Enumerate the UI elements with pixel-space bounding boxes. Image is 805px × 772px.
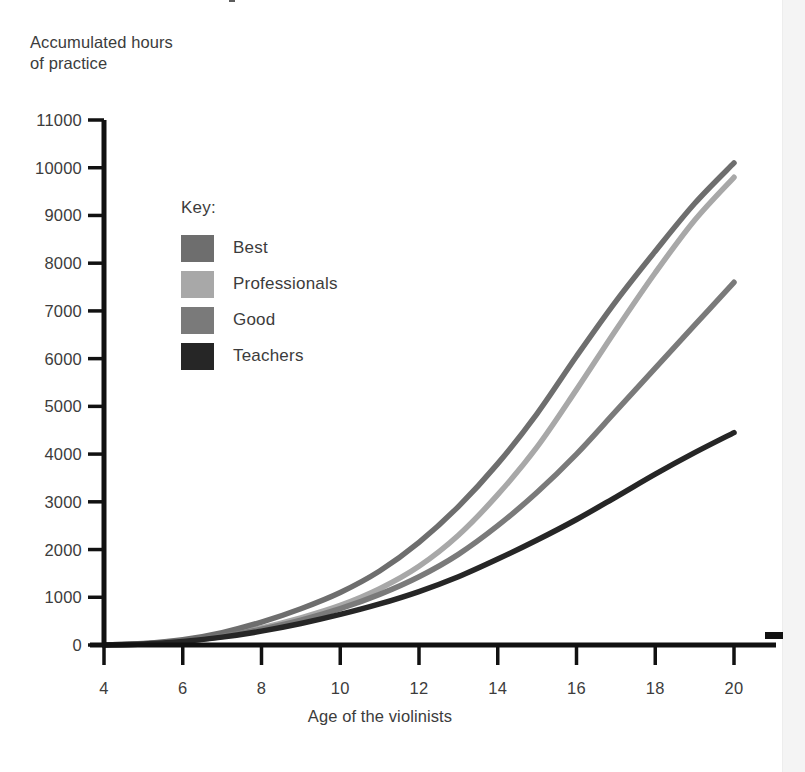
- page-gutter: [782, 0, 805, 772]
- legend-label: Teachers: [233, 346, 304, 366]
- y-tick-label: 1000: [24, 588, 82, 607]
- page-gutter-mark: [765, 632, 783, 639]
- y-tick-label: 6000: [24, 349, 82, 368]
- y-tick-label: 2000: [24, 540, 82, 559]
- legend-swatch-good: [181, 307, 214, 334]
- x-tick-label: 18: [646, 679, 665, 698]
- legend-swatch-professionals: [181, 271, 214, 298]
- cropped-caption-upper: [222, 736, 562, 746]
- y-tick-label: 0: [24, 636, 82, 655]
- x-tick-label: 4: [99, 679, 108, 698]
- legend-item-best: Best: [181, 230, 338, 266]
- legend-title: Key:: [181, 198, 338, 218]
- legend-label: Best: [233, 238, 268, 258]
- legend-rows: BestProfessionalsGoodTeachers: [181, 230, 338, 374]
- chart-page: Accumulated hours of practice 0100020003…: [0, 0, 805, 772]
- y-tick-label: 10000: [24, 158, 82, 177]
- y-tick-label: 9000: [24, 206, 82, 225]
- legend-swatch-teachers: [181, 343, 214, 370]
- chart-svg: [0, 0, 805, 772]
- x-tick-label: 12: [410, 679, 429, 698]
- x-tick-label: 8: [257, 679, 266, 698]
- legend-label: Good: [233, 310, 275, 330]
- x-tick-label: 6: [178, 679, 187, 698]
- legend-swatch-best: [181, 235, 214, 262]
- x-axis-title: Age of the violinists: [0, 707, 760, 726]
- plot-area: [0, 0, 805, 772]
- x-tick-label: 16: [567, 679, 586, 698]
- legend-item-teachers: Teachers: [181, 338, 338, 374]
- series-line-teachers: [104, 433, 734, 645]
- legend-item-professionals: Professionals: [181, 266, 338, 302]
- x-tick-label: 10: [331, 679, 350, 698]
- legend-item-good: Good: [181, 302, 338, 338]
- x-tick-label: 20: [725, 679, 744, 698]
- legend: Key: BestProfessionalsGoodTeachers: [181, 198, 338, 374]
- y-tick-label: 7000: [24, 301, 82, 320]
- y-tick-label: 4000: [24, 445, 82, 464]
- cropped-caption-bottom: [0, 758, 783, 772]
- y-tick-label: 11000: [24, 111, 82, 130]
- legend-label: Professionals: [233, 274, 338, 294]
- y-tick-label: 8000: [24, 254, 82, 273]
- x-tick-label: 14: [488, 679, 507, 698]
- y-tick-label: 3000: [24, 492, 82, 511]
- y-tick-label: 5000: [24, 397, 82, 416]
